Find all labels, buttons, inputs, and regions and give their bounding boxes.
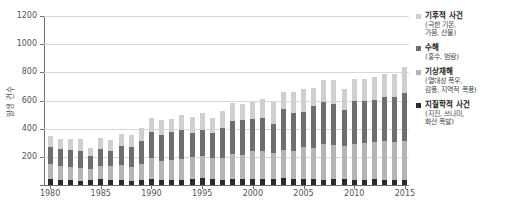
y-axis-tick	[40, 185, 44, 186]
bar-segment	[159, 120, 164, 135]
bar-segment	[210, 118, 215, 133]
legend-title: 기상재해	[425, 68, 476, 77]
bar-segment	[119, 146, 124, 165]
bar-segment	[392, 142, 397, 180]
legend-swatch-icon	[416, 14, 421, 19]
bar-segment	[149, 132, 154, 158]
bar-segment	[250, 151, 255, 178]
bar-series-layer	[44, 16, 409, 185]
bar-2012	[372, 77, 377, 185]
legend-subtitle: 화산 폭발)	[425, 118, 470, 126]
bar-segment	[331, 80, 336, 105]
bar-1990	[149, 118, 154, 185]
bar-segment	[68, 139, 73, 150]
bar-2005	[301, 89, 306, 185]
bar-segment	[271, 153, 276, 179]
y-axis-tick-label: 200	[22, 153, 37, 161]
legend-item-2[interactable]: 수해(홍수, 범람)	[416, 44, 509, 61]
bar-segment	[200, 130, 205, 155]
bar-segment	[250, 119, 255, 151]
bar-segment	[48, 136, 53, 147]
bar-segment	[58, 166, 63, 180]
x-axis-tick-label: 1995	[192, 189, 212, 198]
bar-segment	[108, 180, 113, 185]
bar-1992	[169, 119, 174, 185]
bar-segment	[311, 106, 316, 148]
legend-subtitle: (지진, 쓰나미,	[425, 110, 470, 118]
bar-segment	[179, 180, 184, 185]
bar-segment	[220, 128, 225, 158]
bar-segment	[230, 179, 235, 185]
bar-segment	[301, 89, 306, 112]
bar-segment	[179, 115, 184, 130]
bar-segment	[402, 67, 407, 93]
bar-segment	[291, 151, 296, 178]
bar-1998	[230, 103, 235, 185]
bar-1994	[190, 117, 195, 185]
bar-segment	[200, 178, 205, 185]
bar-segment	[372, 142, 377, 179]
bar-segment	[352, 79, 357, 101]
bar-segment	[342, 179, 347, 185]
bar-segment	[179, 130, 184, 159]
bar-segment	[159, 161, 164, 181]
bar-segment	[382, 97, 387, 141]
bar-segment	[372, 100, 377, 142]
y-axis-tick-label: 1000	[17, 40, 37, 48]
bar-segment	[271, 124, 276, 154]
bar-segment	[108, 140, 113, 151]
bar-1984	[88, 148, 93, 185]
bar-segment	[382, 180, 387, 185]
bar-segment	[392, 180, 397, 185]
bar-segment	[78, 181, 83, 185]
bar-segment	[321, 80, 326, 103]
bar-segment	[392, 74, 397, 97]
legend-text: 지질학적 사건(지진, 쓰나미,화산 폭발)	[425, 101, 470, 126]
bar-segment	[119, 134, 124, 146]
bar-segment	[169, 180, 174, 185]
plot-area: 20040060080010001200 1980198519901995200…	[44, 16, 409, 185]
y-axis-title: 발생 건수	[4, 67, 15, 137]
bar-segment	[301, 112, 306, 147]
bar-segment	[321, 144, 326, 179]
bar-segment	[88, 148, 93, 156]
bar-segment	[88, 169, 93, 180]
bar-segment	[139, 141, 144, 164]
bar-1986	[108, 140, 113, 185]
x-axis-tick-label: 1980	[40, 189, 60, 198]
bar-segment	[342, 89, 347, 110]
bar-segment	[240, 120, 245, 156]
legend-title: 기후적 사건	[425, 12, 463, 21]
y-axis-tick-label: 600	[22, 97, 37, 105]
bar-1980	[48, 136, 53, 185]
bar-segment	[281, 150, 286, 178]
bar-segment	[88, 156, 93, 169]
bar-segment	[321, 102, 326, 144]
bar-segment	[220, 158, 225, 180]
bar-segment	[230, 103, 235, 121]
bar-segment	[331, 145, 336, 180]
bar-segment	[281, 109, 286, 150]
bar-segment	[342, 110, 347, 145]
bar-segment	[281, 92, 286, 109]
bar-segment	[260, 151, 265, 179]
legend-item-3[interactable]: 기상재해(열대성 폭우,감풍, 지역적 폭풍)	[416, 68, 509, 93]
bar-segment	[362, 79, 367, 101]
bar-segment	[119, 165, 124, 180]
bar-segment	[291, 113, 296, 151]
bar-1993	[179, 115, 184, 185]
legend-subtitle: (홍수, 범람)	[425, 53, 459, 61]
legend-item-4[interactable]: 지질학적 사건(지진, 쓰나미,화산 폭발)	[416, 101, 509, 126]
bar-segment	[372, 179, 377, 185]
bar-segment	[68, 167, 73, 180]
bar-segment	[220, 111, 225, 127]
bar-segment	[200, 156, 205, 179]
bar-segment	[402, 141, 407, 180]
bar-segment	[331, 104, 336, 144]
bar-segment	[129, 135, 134, 147]
bar-segment	[230, 154, 235, 179]
bar-segment	[352, 101, 357, 145]
legend-item-1[interactable]: 기후적 사건(극한 기온,가뭄, 산불)	[416, 12, 509, 37]
bar-1991	[159, 120, 164, 185]
bar-segment	[78, 168, 83, 181]
